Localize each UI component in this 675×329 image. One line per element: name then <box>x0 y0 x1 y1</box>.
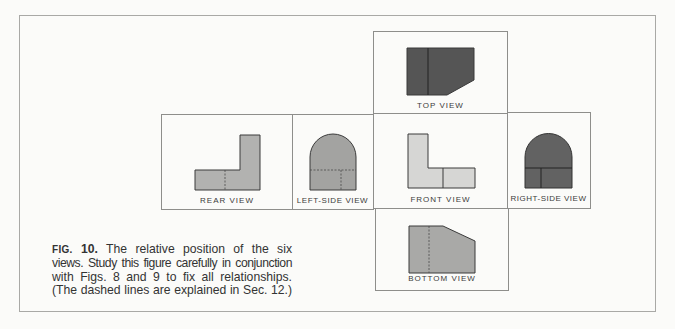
bottom-view-shape <box>409 226 475 273</box>
caption-text-1: The relative position of the six <box>106 242 292 256</box>
caption-line-2: views. Study this figure carefully in co… <box>52 257 292 271</box>
caption-line-4: (The dashed lines are explained in Sec. … <box>52 284 292 298</box>
front-view-shape <box>408 134 475 188</box>
right-side-view-shape <box>525 134 572 189</box>
top-view-shape <box>407 48 474 95</box>
figure-number: 10. <box>81 242 98 256</box>
caption-line-3: with Figs. 8 and 9 to fix all relationsh… <box>52 271 292 285</box>
rear-view-shape <box>195 135 260 190</box>
figure-caption: FIG. 10. The relative position of the si… <box>52 243 292 298</box>
left-side-view-shape <box>310 134 356 190</box>
caption-line-1: FIG. 10. The relative position of the si… <box>52 243 292 257</box>
figure-label: FIG. <box>52 244 73 255</box>
